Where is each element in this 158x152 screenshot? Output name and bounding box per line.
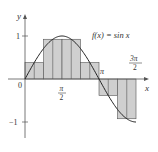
function-label: f(x) = sin x [92, 30, 130, 40]
x-axis-arrow-icon [144, 77, 149, 81]
x-tick-label-pi-half: π 2 [58, 84, 66, 102]
y-axis-arrow-icon [23, 14, 27, 19]
svg-text:2: 2 [133, 63, 137, 72]
x-tick-label-three-pi-half: 3π 2 [129, 54, 142, 72]
svg-text:2: 2 [60, 93, 64, 102]
riemann-sum-chart: y x 0 1 −1 f(x) = sin x π π 2 3π 2 [0, 0, 158, 152]
y-axis-label: y [16, 11, 21, 21]
y-tick-label-1: 1 [16, 32, 20, 41]
svg-text:π: π [60, 84, 64, 93]
x-tick-label-pi: π [100, 67, 105, 76]
origin-label: 0 [18, 81, 22, 90]
x-axis-label: x [144, 83, 149, 93]
svg-text:3π: 3π [129, 54, 138, 63]
y-tick-label-neg1: −1 [9, 118, 18, 127]
